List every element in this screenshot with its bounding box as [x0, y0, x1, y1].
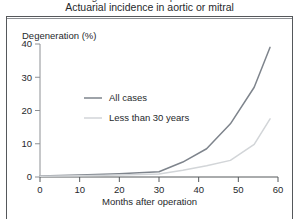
figure-caption: Actuarial incidence in aortic or mitral [0, 1, 299, 13]
figure-caption-block: Degeneration of bioprostheses Actuarial … [0, 0, 299, 15]
x-tick-label: 0 [37, 184, 42, 195]
plot-area: Degeneration (%) 010203040 0102030405060… [0, 19, 299, 219]
y-tick-label: 10 [21, 138, 32, 149]
x-tick-label: 60 [273, 184, 284, 195]
axes [40, 44, 278, 177]
caption-divider [6, 16, 293, 17]
legend-label: Less than 30 years [109, 112, 190, 123]
series-line [40, 119, 270, 177]
x-axis-ticks: 0102030405060 [37, 177, 283, 195]
y-axis-ticks: 010203040 [21, 38, 40, 182]
y-tick-label: 30 [21, 72, 32, 83]
figure-panel: Degeneration of bioprostheses Actuarial … [0, 0, 299, 219]
y-tick-label: 0 [27, 171, 32, 182]
x-axis-label: Months after operation [0, 196, 299, 207]
chart-legend: All casesLess than 30 years [84, 92, 190, 123]
y-tick-label: 20 [21, 105, 32, 116]
x-tick-label: 40 [193, 184, 204, 195]
x-tick-label: 30 [154, 184, 165, 195]
y-tick-label: 40 [21, 38, 32, 49]
x-tick-label: 10 [74, 184, 85, 195]
legend-label: All cases [109, 92, 147, 103]
x-tick-label: 50 [233, 184, 244, 195]
x-tick-label: 20 [114, 184, 125, 195]
line-chart: 010203040 0102030405060 All casesLess th… [0, 19, 299, 219]
